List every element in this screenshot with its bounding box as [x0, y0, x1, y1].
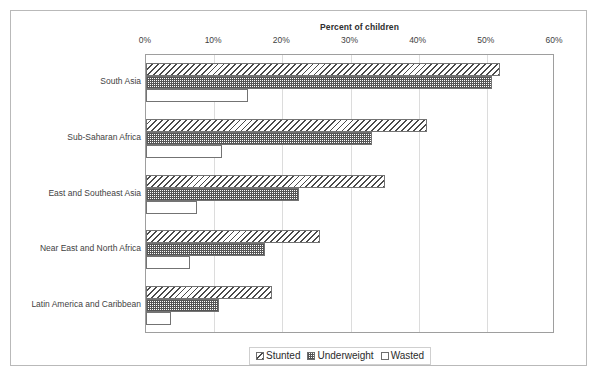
x-tick-label-10: 10%: [193, 35, 233, 45]
legend-item-stunted[interactable]: Stunted: [256, 350, 300, 361]
bar-stunted[interactable]: [146, 63, 500, 76]
bar-stunted[interactable]: [146, 119, 427, 132]
bar-underweight[interactable]: [146, 76, 492, 89]
chart-frame: Percent of children 0%10%20%30%40%50%60%…: [10, 10, 587, 366]
legend-swatch-icon: [307, 352, 315, 360]
bar-group: [146, 278, 553, 333]
legend-swatch-icon: [381, 352, 389, 360]
bar-stunted[interactable]: [146, 230, 320, 243]
bar-stunted[interactable]: [146, 286, 272, 299]
x-tick-label-0: 0%: [125, 35, 165, 45]
x-axis-tick-labels: 0%10%20%30%40%50%60%: [11, 35, 588, 49]
y-axis-category-labels: South AsiaSub-Saharan AfricaEast and Sou…: [11, 54, 143, 333]
y-category-label: South Asia: [9, 76, 141, 86]
x-tick-label-60: 60%: [534, 35, 574, 45]
legend-label: Underweight: [317, 350, 373, 361]
x-tick-label-20: 20%: [261, 35, 301, 45]
bar-wasted[interactable]: [146, 89, 248, 102]
bar-group: [146, 111, 553, 167]
legend-label: Stunted: [266, 350, 300, 361]
legend-swatch-icon: [256, 352, 264, 360]
bar-underweight[interactable]: [146, 243, 265, 256]
bar-wasted[interactable]: [146, 256, 190, 269]
bar-stunted[interactable]: [146, 175, 385, 188]
y-category-label: Latin America and Caribbean: [9, 299, 141, 309]
x-tick-label-30: 30%: [330, 35, 370, 45]
chart-title: Percent of children: [155, 22, 564, 32]
chart-legend: StuntedUnderweightWasted: [249, 347, 431, 365]
bar-group: [146, 167, 553, 223]
legend-item-wasted[interactable]: Wasted: [381, 350, 425, 361]
x-tick-label-50: 50%: [466, 35, 506, 45]
bar-wasted[interactable]: [146, 312, 171, 325]
y-category-label: Near East and North Africa: [9, 243, 141, 253]
y-category-label: East and Southeast Asia: [9, 188, 141, 198]
legend-item-underweight[interactable]: Underweight: [307, 350, 373, 361]
bar-underweight[interactable]: [146, 188, 299, 201]
y-category-label: Sub-Saharan Africa: [9, 132, 141, 142]
bar-underweight[interactable]: [146, 132, 372, 145]
bar-group: [146, 55, 553, 111]
x-tick-label-40: 40%: [398, 35, 438, 45]
bar-underweight[interactable]: [146, 299, 219, 312]
bar-group: [146, 222, 553, 278]
bar-wasted[interactable]: [146, 145, 222, 158]
bar-wasted[interactable]: [146, 201, 197, 214]
legend-label: Wasted: [391, 350, 425, 361]
plot-area: [145, 54, 554, 333]
